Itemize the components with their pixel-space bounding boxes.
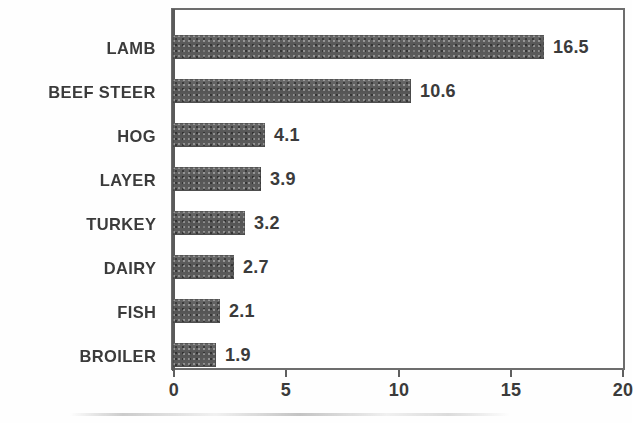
x-axis-tick bbox=[285, 370, 287, 377]
x-axis-tick-label: 15 bbox=[501, 380, 522, 401]
scan-artifact bbox=[70, 413, 510, 416]
category-label: DAIRY bbox=[103, 260, 156, 278]
x-axis-tick-label: 10 bbox=[389, 380, 410, 401]
bar-layer bbox=[173, 167, 261, 191]
bar-value-label: 3.2 bbox=[254, 213, 280, 233]
category-label: TURKEY bbox=[86, 216, 156, 234]
bars-layer: 16.5 10.6 4.1 3.9 3.2 2.7 2.1 1.9 bbox=[173, 10, 623, 368]
category-label: FISH bbox=[117, 304, 156, 322]
category-label: HOG bbox=[117, 128, 156, 146]
category-label: BROILER bbox=[79, 348, 156, 366]
category-axis-labels: LAMB BEEF STEER HOG LAYER TURKEY DAIRY F… bbox=[0, 8, 164, 370]
bar-value-label: 16.5 bbox=[553, 37, 589, 57]
bar-turkey bbox=[173, 211, 245, 235]
x-axis-tick bbox=[510, 370, 512, 377]
bar-beef-steer bbox=[173, 79, 411, 103]
x-axis-tick-label: 0 bbox=[169, 380, 179, 401]
category-label: LAYER bbox=[100, 172, 156, 190]
category-label: BEEF STEER bbox=[49, 84, 156, 102]
bar-hog bbox=[173, 123, 265, 147]
x-axis-tick bbox=[622, 370, 624, 377]
x-axis-tick-label: 5 bbox=[281, 380, 291, 401]
bar-value-label: 10.6 bbox=[420, 81, 456, 101]
x-axis: 0 5 10 15 20 bbox=[173, 370, 625, 410]
bar-value-label: 3.9 bbox=[270, 169, 296, 189]
x-axis-tick-label: 20 bbox=[613, 380, 633, 401]
x-axis-tick bbox=[398, 370, 400, 377]
bar-broiler bbox=[173, 343, 216, 367]
bar-dairy bbox=[173, 255, 234, 279]
bar-value-label: 4.1 bbox=[274, 125, 300, 145]
bar-value-label: 2.7 bbox=[243, 257, 269, 277]
bar-value-label: 2.1 bbox=[229, 301, 255, 321]
bar-fish bbox=[173, 299, 220, 323]
x-axis-tick bbox=[173, 370, 175, 377]
bar-value-label: 1.9 bbox=[225, 345, 251, 365]
category-label: LAMB bbox=[107, 40, 156, 58]
bar-lamb bbox=[173, 35, 544, 59]
